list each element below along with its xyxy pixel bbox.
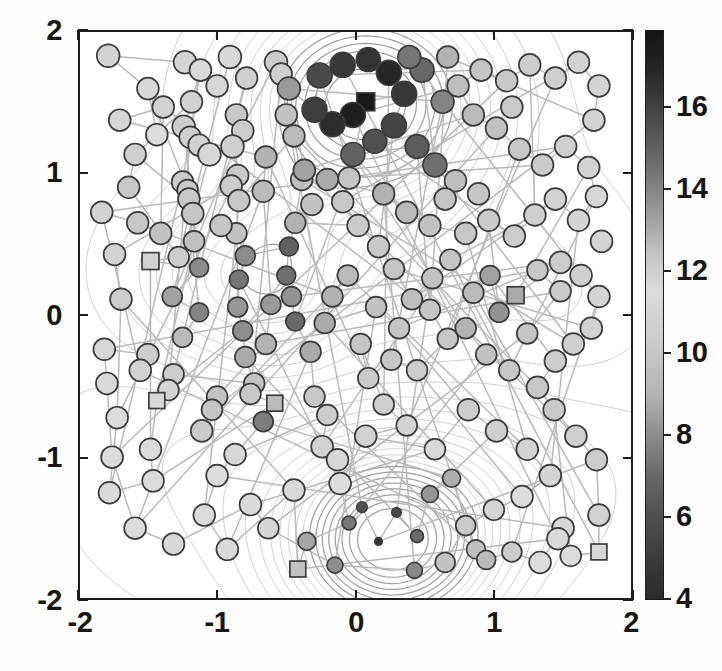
data-marker-circle[interactable] [457,399,479,421]
data-marker-circle[interactable] [398,46,421,69]
data-marker-circle[interactable] [347,215,369,237]
data-marker-circle[interactable] [550,251,572,273]
data-marker-circle[interactable] [383,258,404,279]
data-marker-circle[interactable] [193,504,215,526]
data-marker-circle[interactable] [423,153,447,177]
data-marker-circle[interactable] [99,482,121,504]
data-marker-circle[interactable] [486,420,508,442]
data-marker-circle[interactable] [277,266,296,285]
data-marker-circle[interactable] [221,135,244,158]
data-marker-circle[interactable] [483,499,504,520]
data-marker-circle[interactable] [233,321,253,341]
data-marker-circle[interactable] [106,407,128,429]
data-marker-circle[interactable] [97,44,120,67]
data-marker-circle[interactable] [317,405,338,426]
data-marker-circle[interactable] [435,553,455,573]
data-marker-circle[interactable] [255,334,276,355]
data-marker-circle[interactable] [184,231,205,252]
data-marker-circle[interactable] [529,552,551,574]
data-marker-circle[interactable] [253,412,273,432]
data-marker-circle[interactable] [206,465,228,487]
data-marker-circle[interactable] [198,143,221,166]
data-marker-circle[interactable] [539,465,561,487]
data-marker-circle[interactable] [568,209,590,231]
data-marker-circle[interactable] [501,96,523,118]
data-marker-circle[interactable] [181,91,203,113]
colorbar[interactable] [645,30,664,600]
data-marker-circle[interactable] [527,376,549,398]
data-marker-circle[interactable] [381,349,402,370]
data-marker-circle[interactable] [279,237,298,256]
data-marker-circle[interactable] [190,303,209,322]
data-marker-circle[interactable] [190,258,209,277]
data-marker-circle[interactable] [524,204,546,226]
data-marker-circle[interactable] [470,59,492,81]
data-marker-circle[interactable] [93,338,115,360]
data-marker-circle[interactable] [332,191,354,213]
data-marker-circle[interactable] [342,516,356,530]
data-marker-circle[interactable] [240,494,262,516]
data-marker-circle[interactable] [588,75,610,97]
data-marker-circle[interactable] [478,209,500,231]
data-marker-circle[interactable] [229,270,248,289]
data-marker-circle[interactable] [544,188,566,210]
data-marker-circle[interactable] [560,545,581,566]
data-marker-circle[interactable] [456,516,476,536]
data-marker-circle[interactable] [463,282,484,303]
data-marker-circle[interactable] [476,344,497,365]
data-marker-circle[interactable] [422,268,443,289]
data-marker-circle[interactable] [173,327,193,347]
data-marker-circle[interactable] [580,317,602,339]
data-marker-circle[interactable] [437,328,458,349]
data-marker-circle[interactable] [341,143,365,167]
data-marker-circle[interactable] [210,215,232,237]
data-marker-circle[interactable] [150,222,172,244]
data-marker-circle[interactable] [129,359,151,381]
data-marker-circle[interactable] [293,159,315,181]
data-marker-circle[interactable] [519,54,541,76]
data-marker-circle[interactable] [376,60,401,85]
data-marker-square[interactable] [507,287,524,304]
data-marker-circle[interactable] [543,399,565,421]
data-marker-circle[interactable] [330,52,355,77]
data-marker-circle[interactable] [110,288,132,310]
data-marker-circle[interactable] [302,97,327,122]
data-marker-circle[interactable] [258,518,279,539]
data-marker-circle[interactable] [283,479,305,501]
data-marker-circle[interactable] [350,334,371,355]
data-marker-circle[interactable] [163,533,185,555]
data-marker-circle[interactable] [109,109,131,131]
data-marker-circle[interactable] [304,386,325,407]
data-marker-circle[interactable] [140,438,162,460]
data-marker-circle[interactable] [307,63,332,88]
data-marker-circle[interactable] [327,557,343,573]
data-marker-circle[interactable] [407,360,428,381]
data-marker-circle[interactable] [338,167,360,189]
data-marker-circle[interactable] [527,260,548,281]
data-marker-circle[interactable] [329,473,351,495]
data-marker-square[interactable] [591,544,607,560]
data-marker-circle[interactable] [191,420,213,442]
data-marker-circle[interactable] [216,538,238,560]
data-marker-circle[interactable] [283,125,305,147]
data-marker-circle[interactable] [124,144,146,166]
data-marker-circle[interactable] [396,201,418,223]
data-marker-circle[interactable] [127,212,149,234]
data-marker-circle[interactable] [252,180,274,202]
data-marker-circle[interactable] [322,286,343,307]
data-marker-circle[interactable] [419,215,441,237]
data-marker-circle[interactable] [236,67,258,89]
data-marker-circle[interactable] [586,186,608,208]
data-marker-circle[interactable] [240,384,261,405]
data-marker-circle[interactable] [440,249,461,270]
data-marker-circle[interactable] [499,360,520,381]
data-marker-circle[interactable] [509,138,531,160]
data-marker-circle[interactable] [437,46,459,68]
data-marker-circle[interactable] [358,368,379,389]
data-marker-circle[interactable] [405,135,429,159]
data-marker-circle[interactable] [366,297,387,318]
data-marker-circle[interactable] [462,104,484,126]
data-marker-circle[interactable] [206,75,228,97]
data-marker-circle[interactable] [555,136,577,158]
data-marker-square[interactable] [142,253,159,270]
